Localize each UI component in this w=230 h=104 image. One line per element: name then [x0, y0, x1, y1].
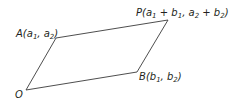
edge-PB [137, 20, 168, 72]
label-B: B(b1, b2) [139, 71, 182, 84]
edge-AP [56, 20, 168, 38]
label-O: O [15, 89, 23, 100]
edge-OA [26, 38, 56, 90]
label-A: A(a1, a2) [15, 28, 58, 41]
edge-BO [26, 72, 137, 90]
label-P: P(a1 + b1, a2 + b2) [136, 7, 229, 20]
parallelogram-diagram: O A(a1, a2) P(a1 + b1, a2 + b2) B(b1, b2… [0, 0, 230, 104]
